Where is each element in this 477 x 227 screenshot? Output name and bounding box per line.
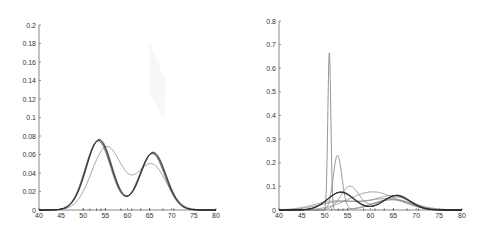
x-tick-label: 80 [458,212,466,219]
x-tick-label: 80 [212,212,220,219]
left-density-chart: 00.020.040.060.080.10.120.140.160.180.24… [22,22,220,220]
y-tick-label: 0.2 [26,22,36,29]
x-tick-label: 45 [57,212,65,219]
x-tick-label: 45 [298,212,306,219]
y-tick-label: 0.04 [22,170,36,177]
x-tick-label: 65 [146,212,154,219]
x-tick-label: 70 [412,212,420,219]
y-tick-label: 0.14 [22,77,36,84]
y-tick-label: 0.02 [22,188,36,195]
y-tick-label: 0.18 [22,40,36,47]
posterior-haze [150,44,165,119]
series-broad-bimodal [279,196,462,210]
series-single-estimate [39,146,216,210]
x-tick-label: 70 [168,212,176,219]
x-tick-label: 55 [101,212,109,219]
x-tick-label: 40 [35,212,43,219]
y-tick-label: 0.5 [266,88,276,95]
x-tick-label: 40 [275,212,283,219]
y-tick-label: 0.7 [266,41,276,48]
y-tick-label: 0.1 [266,183,276,190]
series-narrow-left [279,155,462,210]
y-tick-label: 0.2 [266,159,276,166]
x-tick-label: 60 [367,212,375,219]
y-tick-label: 0.1 [26,114,36,121]
figure: 00.020.040.060.080.10.120.140.160.180.24… [0,0,477,227]
axes: 00.10.20.30.40.50.60.70.8404550556065707… [266,18,466,220]
x-tick-label: 75 [435,212,443,219]
series-posterior-band [39,139,216,210]
y-tick-label: 0.08 [22,133,36,140]
y-tick-label: 0.6 [266,65,276,72]
x-tick-label: 50 [79,212,87,219]
y-tick-label: 0.12 [22,96,36,103]
x-tick-label: 75 [190,212,198,219]
y-tick-label: 0.8 [266,18,276,25]
right-density-chart: 00.10.20.30.40.50.60.70.8404550556065707… [266,18,466,220]
axes: 00.020.040.060.080.10.120.140.160.180.24… [22,22,220,220]
x-tick-label: 50 [321,212,329,219]
x-tick-label: 65 [389,212,397,219]
x-tick-label: 55 [344,212,352,219]
y-tick-label: 0.06 [22,151,36,158]
y-tick-label: 0.4 [266,112,276,119]
x-tick-label: 60 [124,212,132,219]
y-tick-label: 0.3 [266,136,276,143]
y-tick-label: 0.16 [22,59,36,66]
series-spike [279,53,462,210]
